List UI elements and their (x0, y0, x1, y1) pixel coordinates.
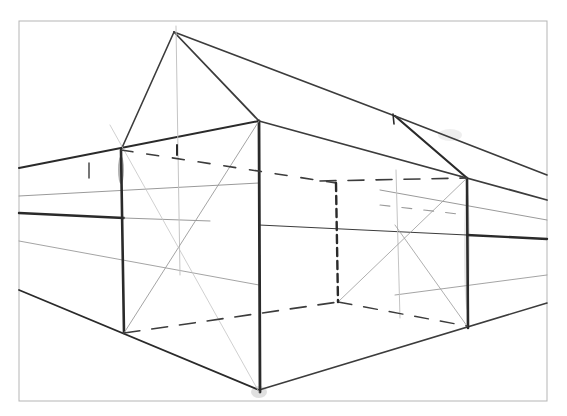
edge-right-corner (467, 178, 468, 328)
horizon-left (19, 213, 124, 218)
guide-lower-left (19, 241, 259, 285)
back-ridge-tick (393, 114, 394, 124)
hidden-top-right (320, 178, 467, 181)
construction-lines (19, 26, 547, 392)
ground-left (19, 290, 259, 390)
smudge (438, 129, 462, 141)
hidden-edge-lines (121, 150, 467, 333)
horizon-mid (259, 225, 467, 235)
guide-upper-right (380, 190, 547, 220)
horizon-right (467, 235, 547, 239)
house-perspective-drawing (0, 0, 567, 416)
diag-left-2 (110, 125, 259, 392)
edge-front-corner (259, 121, 260, 392)
eave-left (19, 121, 259, 168)
ridge-extension (395, 116, 547, 175)
roof-front-slope (174, 32, 259, 121)
pencil-smudges (118, 129, 470, 398)
hidden-back-corner (336, 183, 338, 302)
guide-lower-right (395, 275, 547, 295)
eave-right (259, 121, 547, 200)
hidden-right-guide (380, 205, 467, 215)
diag-right-1 (338, 178, 467, 302)
ground-right (259, 303, 547, 390)
diag-left-1 (124, 121, 259, 333)
hidden-bottom-left (124, 302, 338, 333)
diag-right-2 (395, 225, 467, 326)
roof-left-slope (121, 32, 174, 150)
hidden-top-left (121, 150, 336, 183)
edge-left-corner (121, 150, 124, 333)
guide-upper-left (19, 183, 259, 196)
hidden-bottom-right (338, 302, 467, 326)
roof-ridge (174, 32, 395, 116)
sketch-canvas (0, 0, 567, 416)
